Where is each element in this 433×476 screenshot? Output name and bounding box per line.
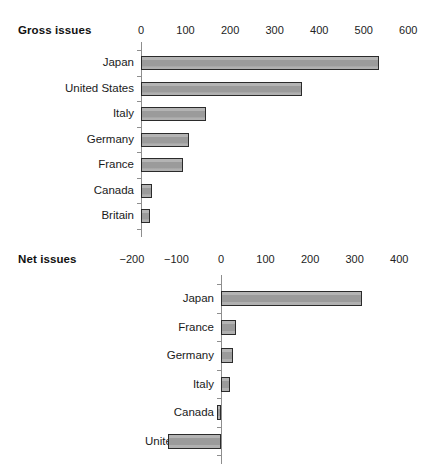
bar bbox=[141, 107, 206, 121]
gross-tick-label: 100 bbox=[176, 24, 194, 36]
bar bbox=[221, 320, 236, 335]
net-tick-label: 200 bbox=[301, 253, 319, 265]
gross-tick-label: 500 bbox=[355, 24, 373, 36]
bar bbox=[221, 348, 233, 363]
bar bbox=[221, 291, 362, 306]
category-label: Canada bbox=[174, 407, 214, 419]
bar bbox=[141, 158, 183, 172]
net-tick-label: 400 bbox=[390, 253, 408, 265]
net-x-axis-tick-labels: −200−1000100200300400 bbox=[0, 253, 433, 267]
net-tick-label: −200 bbox=[120, 253, 145, 265]
axis-tick-mark bbox=[137, 127, 141, 128]
bar bbox=[221, 377, 230, 392]
axis-tick-mark bbox=[217, 313, 221, 314]
gross-tick-label: 200 bbox=[221, 24, 239, 36]
category-label: France bbox=[178, 322, 214, 334]
bar bbox=[217, 405, 221, 420]
bar-row: Japan bbox=[0, 291, 433, 306]
bar bbox=[141, 133, 189, 147]
axis-tick-mark bbox=[217, 370, 221, 371]
category-label: Germany bbox=[167, 350, 214, 362]
gross-tick-label: 400 bbox=[310, 24, 328, 36]
bar-row: Canada bbox=[0, 184, 433, 198]
bar-row: France bbox=[0, 158, 433, 172]
axis-tick-mark bbox=[137, 178, 141, 179]
category-label: Germany bbox=[87, 134, 134, 146]
category-label: France bbox=[98, 159, 134, 171]
net-tick-label: 100 bbox=[256, 253, 274, 265]
axis-tick-mark bbox=[217, 398, 221, 399]
axis-tick-mark bbox=[137, 152, 141, 153]
gross-tick-label: 300 bbox=[265, 24, 283, 36]
category-label: Britain bbox=[101, 210, 134, 222]
axis-tick-mark bbox=[137, 203, 141, 204]
category-label: Italy bbox=[113, 108, 134, 120]
net-tick-label: −100 bbox=[164, 253, 189, 265]
category-label: Japan bbox=[103, 57, 134, 69]
category-label: Japan bbox=[183, 293, 214, 305]
axis-tick-mark bbox=[137, 50, 141, 51]
category-label: United States bbox=[65, 83, 134, 95]
bar-row: United States bbox=[0, 434, 433, 449]
bar-row: Italy bbox=[0, 107, 433, 121]
bar bbox=[141, 209, 150, 223]
bar-row: Japan bbox=[0, 56, 433, 70]
bar bbox=[141, 82, 302, 96]
axis-tick-mark bbox=[137, 101, 141, 102]
bar-row: Canada bbox=[0, 405, 433, 420]
axis-tick-mark bbox=[137, 76, 141, 77]
axis-tick-mark bbox=[217, 455, 221, 456]
bar-row: France bbox=[0, 320, 433, 335]
gross-tick-label: 600 bbox=[399, 24, 417, 36]
axis-tick-mark bbox=[217, 284, 221, 285]
net-tick-label: 0 bbox=[218, 253, 224, 265]
axis-tick-mark bbox=[217, 427, 221, 428]
gross-x-axis-tick-labels: 0100200300400500600 bbox=[0, 24, 433, 38]
net-tick-label: 300 bbox=[345, 253, 363, 265]
gross-tick-label: 0 bbox=[138, 24, 144, 36]
axis-tick-mark bbox=[217, 341, 221, 342]
bar-row: United States bbox=[0, 82, 433, 96]
bar-row: Italy bbox=[0, 377, 433, 392]
axis-tick-mark bbox=[137, 229, 141, 230]
bar bbox=[141, 184, 152, 198]
category-label: Italy bbox=[193, 379, 214, 391]
bar-row: Germany bbox=[0, 348, 433, 363]
bar-row: Britain bbox=[0, 209, 433, 223]
bar bbox=[141, 56, 379, 70]
net-issues-chart: Net issues −200−1000100200300400 JapanFr… bbox=[0, 240, 433, 476]
bar-row: Germany bbox=[0, 133, 433, 147]
bar bbox=[168, 434, 221, 449]
gross-issues-chart: Gross issues 0100200300400500600 JapanUn… bbox=[0, 0, 433, 240]
category-label: Canada bbox=[94, 185, 134, 197]
